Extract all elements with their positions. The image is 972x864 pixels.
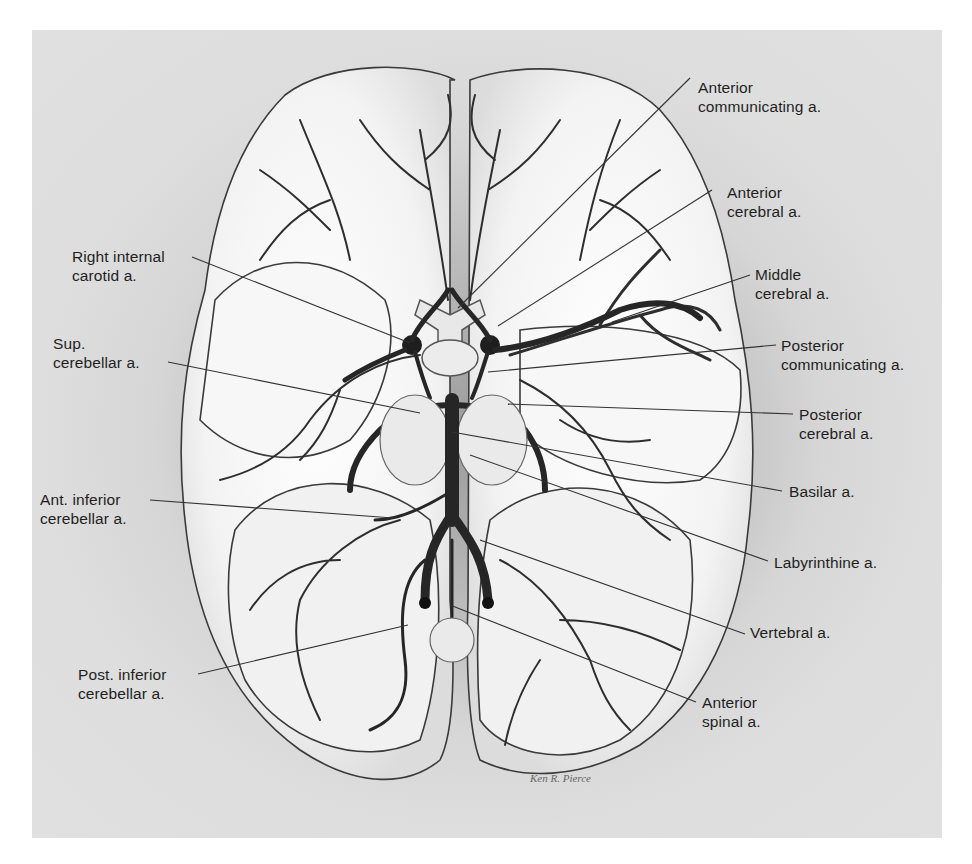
label-middle-cerebral: Middlecerebral a.	[755, 265, 829, 303]
pituitary-stalk	[422, 340, 478, 376]
label-sup-cerebellar: Sup.cerebellar a.	[53, 334, 140, 372]
label-posterior-communicating: Posteriorcommunicating a.	[781, 336, 904, 374]
label-labyrinthine: Labyrinthine a.	[774, 553, 877, 572]
artist-signature: Ken R. Pierce	[529, 772, 591, 784]
label-anterior-spinal: Anteriorspinal a.	[702, 693, 761, 731]
label-post-inferior-cerebellar: Post. inferiorcerebellar a.	[78, 665, 166, 703]
label-anterior-communicating: Anteriorcommunicating a.	[698, 78, 821, 116]
label-posterior-cerebral: Posteriorcerebral a.	[799, 405, 873, 443]
label-ant-inferior-cerebellar: Ant. inferiorcerebellar a.	[40, 490, 127, 528]
label-right-internal-carotid: Right internalcarotid a.	[72, 247, 165, 285]
label-basilar: Basilar a.	[789, 482, 855, 501]
label-vertebral: Vertebral a.	[750, 623, 830, 642]
label-anterior-cerebral: Anteriorcerebral a.	[727, 183, 801, 221]
